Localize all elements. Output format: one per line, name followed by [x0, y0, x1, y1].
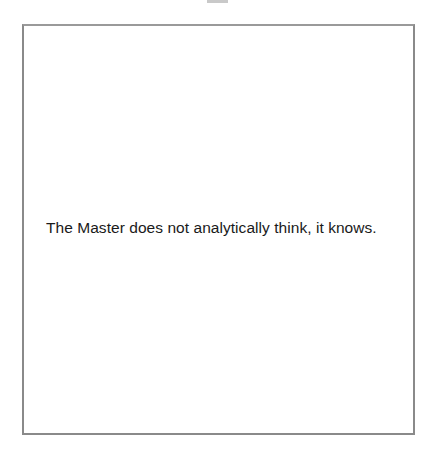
- text-card: The Master does not analytically think, …: [22, 24, 415, 435]
- quote-text: The Master does not analytically think, …: [46, 219, 377, 237]
- top-tab-indicator: [207, 0, 228, 3]
